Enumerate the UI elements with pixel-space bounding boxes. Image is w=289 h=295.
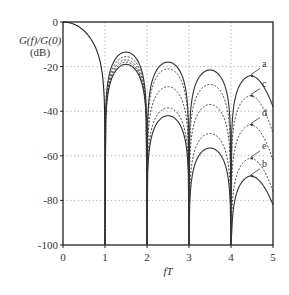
series-curves: [63, 22, 273, 245]
y-tick-label: -100: [38, 239, 59, 251]
grid-lines: [63, 22, 273, 245]
y-tick-label: -60: [43, 150, 58, 162]
x-tick-label: 3: [186, 251, 192, 263]
annotation-arrow: [251, 69, 260, 75]
arrowhead-icon: [250, 157, 254, 160]
x-tick-label: 4: [228, 251, 234, 263]
series-label-e: e: [262, 140, 267, 151]
series-label-c: c: [262, 78, 267, 89]
x-tick-label: 2: [144, 251, 150, 263]
series-label-d: d: [262, 107, 267, 118]
annotation-arrow: [251, 89, 260, 95]
y-tick-label: -20: [43, 61, 58, 73]
y-tick-label: -80: [43, 194, 58, 206]
plot-frame: [63, 22, 273, 245]
main-lobe-curve: [63, 22, 105, 245]
arrowhead-icon: [250, 95, 254, 98]
x-tick-label: 5: [270, 251, 276, 263]
annotation-arrow: [251, 169, 260, 175]
y-axis-title-line2: (dB): [30, 46, 51, 59]
annotation-arrow: [251, 118, 260, 124]
y-tick-label: -40: [43, 105, 58, 117]
x-tick-label: 0: [60, 251, 66, 263]
series-label-b: b: [262, 158, 267, 169]
sidelobe-chart: 0123450-20-40-60-80-100 acdeb G(f)/G(0) …: [0, 0, 289, 295]
axis-ticks: 0123450-20-40-60-80-100: [38, 16, 276, 263]
x-axis-title: fT: [163, 265, 173, 277]
series-annotations: acdeb: [250, 58, 267, 178]
x-tick-label: 1: [102, 251, 108, 263]
arrowhead-icon: [250, 124, 254, 127]
series-label-a: a: [262, 58, 267, 69]
y-tick-label: 0: [53, 16, 59, 28]
annotation-arrow: [251, 151, 260, 157]
